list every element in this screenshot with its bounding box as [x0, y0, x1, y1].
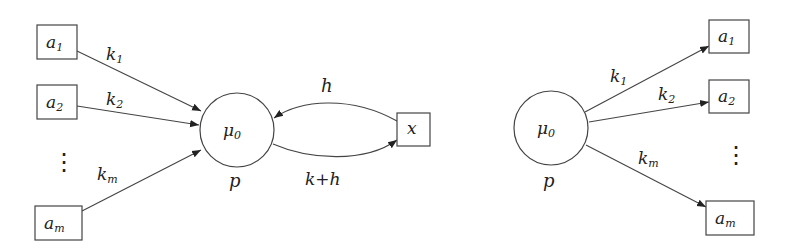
node-mu0-left: μ0 [200, 93, 274, 167]
edge-mu0-to-a2 [589, 102, 709, 122]
edge-label-km-left: km [97, 164, 118, 186]
edge-label-k2-left: k2 [106, 89, 123, 111]
edge-mu0-to-a1 [585, 46, 709, 112]
node-x: x [397, 113, 430, 146]
edge-x-to-mu0-h [274, 103, 397, 121]
node-a1-right: a1 [709, 20, 749, 53]
svg-text:x: x [407, 118, 417, 138]
right-diagram: μ0 p k1 k2 km a1 a2 ⋮ am [514, 20, 754, 235]
ellipsis-left: ⋮ [52, 149, 76, 175]
edge-label-k1-left: k1 [106, 44, 123, 66]
node-a1-left: a1 [37, 25, 77, 59]
edge-a2-to-mu0 [77, 106, 199, 125]
node-am-right: am [706, 201, 754, 235]
edge-label-km-right: km [638, 148, 659, 170]
node-mu0-left-below-label: p [229, 170, 241, 191]
node-a2-left: a2 [37, 85, 77, 119]
node-am-left: am [35, 206, 82, 240]
ellipsis-right: ⋮ [724, 142, 748, 168]
node-mu0-right: μ0 [514, 91, 588, 165]
edge-a1-to-mu0 [77, 51, 201, 111]
node-mu0-right-below-label: p [543, 170, 555, 191]
node-a2-right: a2 [709, 80, 749, 113]
edge-label-k2-right: k2 [658, 84, 675, 106]
edge-mu0-to-x-k-plus-h [273, 140, 397, 157]
left-diagram: a1 a2 ⋮ am k1 k2 km μ0 p x h k+h [35, 25, 430, 240]
diagram-canvas: a1 a2 ⋮ am k1 k2 km μ0 p x h k+h [0, 0, 787, 251]
edge-label-k-plus-h: k+h [305, 169, 341, 189]
edge-label-h: h [321, 75, 333, 96]
edge-label-k1-right: k1 [610, 66, 627, 88]
